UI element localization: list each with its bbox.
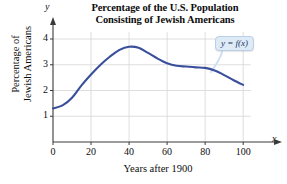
y-tick-label: 1 xyxy=(34,109,48,120)
y-tick-label: 3 xyxy=(34,58,48,69)
x-tick-label: 100 xyxy=(233,146,253,157)
x-tick-label: 0 xyxy=(43,146,63,157)
data-curve xyxy=(53,47,243,109)
y-tick-label: 4 xyxy=(34,32,48,43)
x-tick-label: 40 xyxy=(119,146,139,157)
x-tick-label: 20 xyxy=(81,146,101,157)
tick-marks xyxy=(50,39,243,145)
y-tick-label: 2 xyxy=(34,84,48,95)
x-tick-label: 80 xyxy=(195,146,215,157)
x-tick-label: 60 xyxy=(157,146,177,157)
function-callout-label: y = f(x) xyxy=(215,36,254,51)
